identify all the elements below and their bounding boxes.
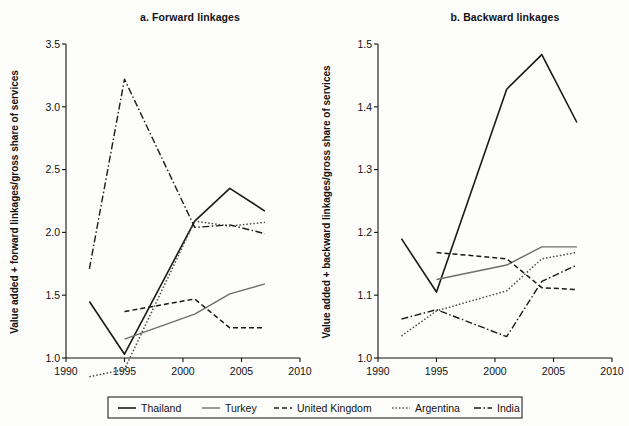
x-tick-label: 2005 (542, 365, 566, 377)
x-tick-label: 1995 (425, 365, 449, 377)
series-line-argentina (89, 221, 265, 377)
panel-a-y-axis: 1.01.52.02.53.03.5 (45, 38, 66, 364)
panel-forward-linkages: a. Forward linkages Value added + forwar… (9, 11, 312, 377)
panel-a-series-group (89, 79, 265, 377)
x-tick-label: 2000 (483, 365, 507, 377)
x-tick-label: 1990 (366, 365, 390, 377)
legend-label-argentina: Argentina (415, 402, 460, 414)
legend: ThailandTurkeyUnited KingdomArgentinaInd… (108, 397, 522, 418)
y-tick-label: 1.0 (45, 352, 60, 364)
series-line-argentina (401, 253, 577, 337)
x-tick-label: 1995 (113, 365, 137, 377)
panel-backward-linkages: b. Backward linkages Value added + backw… (321, 11, 624, 377)
linkages-figure: a. Forward linkages Value added + forwar… (0, 0, 629, 426)
x-tick-label: 2005 (230, 365, 254, 377)
series-line-india (89, 79, 265, 269)
panel-b-x-axis: 19901995200020052010 (366, 358, 624, 377)
y-tick-label: 2.5 (45, 163, 60, 175)
legend-entries: ThailandTurkeyUnited KingdomArgentinaInd… (118, 402, 520, 414)
series-line-united-kingdom (437, 253, 577, 290)
y-tick-label: 2.0 (45, 226, 60, 238)
legend-label-united-kingdom: United Kingdom (297, 402, 372, 414)
x-tick-label: 1990 (54, 365, 78, 377)
y-tick-label: 1.4 (357, 101, 372, 113)
y-tick-label: 3.0 (45, 101, 60, 113)
y-tick-label: 1.3 (357, 163, 372, 175)
y-tick-label: 1.5 (357, 38, 372, 50)
y-tick-label: 1.2 (357, 226, 372, 238)
panel-b-y-axis-label: Value added + backward linkages/gross sh… (321, 65, 332, 339)
x-tick-label: 2010 (288, 365, 312, 377)
panel-b-title: b. Backward linkages (451, 11, 560, 23)
panel-a-y-axis-label: Value added + forward linkages/gross sha… (9, 70, 20, 334)
y-tick-label: 1.1 (357, 289, 372, 301)
panel-b-series-group (401, 55, 577, 337)
series-line-india (401, 265, 577, 337)
y-tick-label: 1.0 (357, 352, 372, 364)
y-tick-label: 3.5 (45, 38, 60, 50)
y-tick-label: 1.5 (45, 289, 60, 301)
series-line-turkey (125, 284, 265, 339)
panel-b-y-axis: 1.01.11.21.31.41.5 (357, 38, 378, 364)
legend-label-india: India (497, 402, 520, 414)
series-line-thailand (89, 188, 265, 354)
legend-label-thailand: Thailand (141, 402, 181, 414)
legend-label-turkey: Turkey (225, 402, 257, 414)
panel-a-x-axis: 19901995200020052010 (54, 358, 312, 377)
x-tick-label: 2010 (600, 365, 624, 377)
x-tick-label: 2000 (171, 365, 195, 377)
panel-a-title: a. Forward linkages (140, 11, 240, 23)
